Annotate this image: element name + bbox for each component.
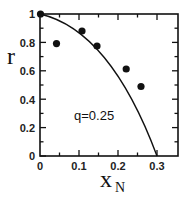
y-ticks-left xyxy=(40,28,46,156)
y-tick-0.2: 0.2 xyxy=(20,122,35,134)
y-tick-0: 0 xyxy=(29,150,35,162)
x-tick-0.2: 0.2 xyxy=(110,160,125,172)
plot-frame xyxy=(40,14,178,156)
x-ticks-bottom xyxy=(60,150,158,156)
y-tick-0.6: 0.6 xyxy=(20,65,35,77)
y-tick-0.4: 0.4 xyxy=(20,94,36,106)
data-point xyxy=(123,65,130,72)
y-ticks-right xyxy=(172,28,178,142)
data-point xyxy=(137,83,144,90)
x-ticks-top xyxy=(60,14,158,20)
data-point xyxy=(37,10,44,17)
y-tick-labels: 1 0.8 0.6 0.4 0.2 0 xyxy=(20,8,36,162)
y-tick-0.8: 0.8 xyxy=(20,37,35,49)
data-point xyxy=(53,40,60,47)
data-point xyxy=(93,42,100,49)
y-axis-label: r xyxy=(7,43,15,69)
x-tick-0: 0 xyxy=(37,160,43,172)
data-points xyxy=(37,10,145,90)
data-point xyxy=(78,27,85,34)
x-axis-label-subscript: N xyxy=(115,180,125,195)
x-tick-0.3: 0.3 xyxy=(149,160,164,172)
y-tick-1: 1 xyxy=(29,8,35,20)
q-annotation: q=0.25 xyxy=(74,108,114,123)
x-axis-label: x xyxy=(100,166,112,192)
x-tick-0.1: 0.1 xyxy=(71,160,86,172)
chart: 1 0.8 0.6 0.4 0.2 0 0 0.1 0.2 0.3 r x N … xyxy=(0,0,190,199)
